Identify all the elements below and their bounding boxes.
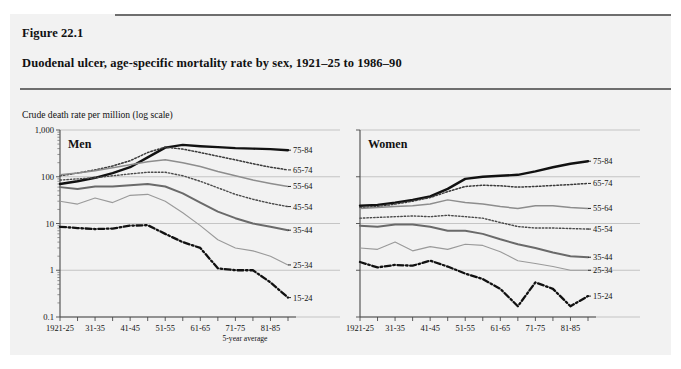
series-label-women-25-34: 25-34 (593, 266, 613, 275)
x-tick-label: 81-85 (561, 324, 581, 333)
series-label-men-65-74: 65-74 (293, 166, 313, 175)
series-label-men-35-44: 35-44 (293, 226, 313, 235)
y-tick-label: 0.1 (43, 312, 54, 322)
series-label-women-45-54: 45-54 (593, 225, 613, 234)
series-label-men-75-84: 75-84 (293, 146, 313, 155)
mortality-line-chart: 1,0001001010.11921-2531-3541-4551-5561-6… (10, 14, 671, 355)
series-label-men-45-54: 45-54 (293, 203, 313, 212)
series-label-women-15-24: 15-24 (593, 292, 613, 301)
panel-title-women: Women (368, 137, 408, 151)
y-tick-label: 100 (41, 172, 54, 182)
series-label-men-15-24: 15-24 (293, 294, 313, 303)
x-tick-label: 61-65 (191, 324, 211, 333)
series-line-women-75-84 (360, 161, 588, 206)
y-tick-label: 1 (50, 265, 54, 275)
x-tick-label: 31-35 (85, 324, 105, 333)
series-line-men-15-24 (60, 225, 288, 297)
data-lines (60, 145, 588, 306)
series-line-women-45-54 (360, 215, 588, 229)
figure-card: Figure 22.1 Duodenal ulcer, age-specific… (10, 14, 671, 355)
series-label-men-55-64: 55-64 (293, 182, 313, 191)
x-tick-label: 31-35 (385, 324, 405, 333)
series-label-women-55-64: 55-64 (593, 204, 613, 213)
series-label-women-35-44: 35-44 (593, 253, 613, 262)
x-tick-label: 41-45 (420, 324, 440, 333)
x-tick-label: 71-75 (226, 324, 246, 333)
x-tick-label: 71-75 (526, 324, 546, 333)
x-tick-label: 1921-25 (46, 324, 74, 333)
x-tick-label: 61-65 (491, 324, 511, 333)
x-tick-label: 81-85 (261, 324, 281, 333)
series-line-women-35-44 (360, 225, 588, 258)
series-line-women-15-24 (360, 261, 588, 307)
x-tick-label: 51-55 (155, 324, 175, 333)
x-axis-note: 5-year average (223, 334, 269, 343)
series-label-women-75-84: 75-84 (593, 157, 613, 166)
chart-text-labels: 1,0001001010.11921-2531-3541-4551-5561-6… (35, 125, 614, 343)
y-tick-label: 10 (45, 219, 54, 229)
x-tick-label: 41-45 (120, 324, 140, 333)
x-tick-label: 1921-25 (346, 324, 374, 333)
y-tick-label: 1,000 (35, 125, 54, 135)
x-tick-label: 51-55 (455, 324, 475, 333)
series-label-women-65-74: 65-74 (593, 179, 613, 188)
panel-title-men: Men (68, 137, 92, 151)
series-label-men-25-34: 25-34 (293, 261, 313, 270)
